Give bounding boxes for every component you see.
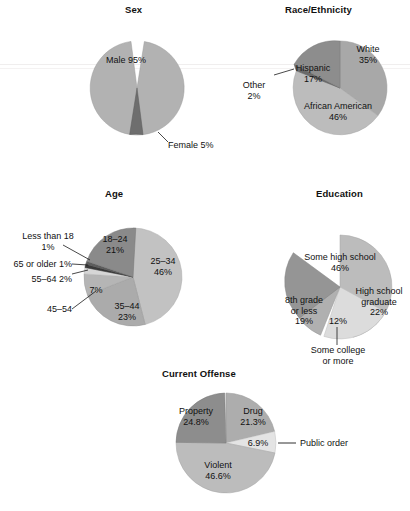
label-property-pct: 24.8% (183, 417, 209, 427)
panel-current-offense: Current Offense Property 24.8% Drug 21.3… (110, 365, 410, 511)
panel-race-ethnicity: Race/Ethnicity White 35% Hispanic 17% Ot… (250, 0, 410, 185)
label-age-less-than-18: Less than 18 1% (8, 231, 88, 252)
label-age-25-34-pct: 46% (154, 267, 172, 277)
label-hispanic: Hispanic 17% (288, 63, 338, 84)
label-age-45-54-pct: 7% (83, 285, 109, 296)
panel-education: Education Some high school 46% High scho… (215, 185, 410, 365)
label-other: Other 2% (232, 80, 276, 101)
label-violent: Violent 46.6% (188, 460, 248, 481)
label-high-school-graduate-line1: High school (355, 286, 402, 296)
label-age-18-24: 18–24 21% (92, 234, 138, 255)
panel-age: Age Less than 18 1% (0, 185, 215, 365)
label-property-name: Property (179, 406, 213, 416)
label-some-college-pct: 12% (323, 316, 353, 327)
label-public-order: Public order (300, 438, 348, 449)
label-age-25-34: 25–34 46% (140, 256, 186, 277)
label-white: White 35% (345, 44, 391, 65)
pie-education (215, 185, 410, 365)
label-high-school-graduate-pct: 22% (370, 307, 388, 317)
label-male: Male 95% (106, 55, 146, 66)
label-drug: Drug 21.3% (229, 406, 277, 427)
label-drug-pct: 21.3% (240, 417, 266, 427)
label-age-35-44-pct: 23% (118, 312, 136, 322)
label-high-school-graduate: High school graduate 22% (348, 286, 410, 318)
label-age-18-24-pct: 21% (106, 245, 124, 255)
label-property: Property 24.8% (165, 406, 227, 427)
label-high-school-graduate-line2: graduate (361, 297, 397, 307)
label-violent-name: Violent (204, 460, 231, 470)
label-age-less-than-18-pct: 1% (41, 242, 54, 252)
label-age-45-54: 45–54 (0, 304, 72, 315)
label-some-high-school-pct: 46% (331, 263, 349, 273)
label-african-american: African American 46% (288, 101, 388, 122)
label-age-18-24-name: 18–24 (102, 234, 127, 244)
label-some-college-or-more-line2: or more (322, 356, 353, 366)
panel-sex: Sex Male 95% Female 5% (0, 0, 250, 185)
label-hispanic-name: Hispanic (296, 63, 331, 73)
label-female: Female 5% (168, 140, 214, 151)
label-age-65-or-older: 65 or older 1% (0, 259, 72, 270)
label-hispanic-pct: 17% (304, 74, 322, 84)
label-some-high-school: Some high school 46% (277, 252, 403, 273)
label-8th-grade-or-less-line1: 8th grade (285, 295, 323, 305)
pie-sex (0, 0, 250, 185)
label-age-less-than-18-name: Less than 18 (22, 231, 74, 241)
label-age-55-64: 55–64 2% (0, 274, 72, 285)
label-some-college-or-more: Some college or more (291, 345, 385, 366)
label-other-pct: 2% (247, 91, 260, 101)
label-age-25-34-name: 25–34 (150, 256, 175, 266)
label-age-35-44-name: 35–44 (114, 301, 139, 311)
label-8th-grade-or-less-line2: or less (291, 306, 318, 316)
label-some-high-school-name: Some high school (304, 252, 376, 262)
label-age-35-44: 35–44 23% (104, 301, 150, 322)
label-some-college-or-more-line1: Some college (311, 345, 366, 355)
label-african-american-pct: 46% (329, 112, 347, 122)
label-white-name: White (356, 44, 379, 54)
label-public-order-pct: 6.9% (240, 438, 276, 449)
label-white-pct: 35% (359, 55, 377, 65)
label-drug-name: Drug (243, 406, 263, 416)
leader-line-female (158, 132, 168, 142)
pie-chart-figure: Sex Male 95% Female 5% Race/Ethnicity (0, 0, 410, 511)
label-african-american-name: African American (304, 101, 372, 111)
label-8th-grade-or-less-pct: 19% (295, 316, 313, 326)
label-other-name: Other (243, 80, 266, 90)
label-violent-pct: 46.6% (205, 471, 231, 481)
